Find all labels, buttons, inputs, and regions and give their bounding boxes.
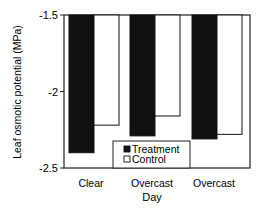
x-category-label: Clear [78, 177, 104, 189]
x-category-label: Overcast [193, 177, 235, 189]
y-tick-label: -2 [48, 86, 58, 98]
bar-treatment [192, 15, 217, 139]
legend: TreatmentControl [113, 141, 190, 168]
bar-control [155, 15, 180, 116]
bars [69, 15, 242, 153]
x-axis-label: Day [142, 191, 162, 203]
bar-chart: -1.5-2-2.5 ClearOvercastOvercast Treatme… [0, 0, 258, 214]
x-category-label: Overcast [131, 177, 173, 189]
x-axis-categories: ClearOvercastOvercast [78, 177, 235, 189]
y-axis-label: Leaf osmotic potential (MPa) [11, 25, 23, 159]
y-tick-label: -1.5 [39, 9, 58, 21]
legend-swatch-control [124, 156, 130, 162]
legend-swatch-treatment [124, 146, 130, 152]
bar-control [217, 15, 242, 134]
bar-treatment [69, 15, 94, 153]
y-tick-label: -2.5 [39, 162, 58, 174]
bar-control [94, 15, 119, 125]
y-axis-ticks: -1.5-2-2.5 [39, 9, 64, 174]
bar-treatment [130, 15, 155, 136]
legend-label: Control [132, 153, 166, 165]
